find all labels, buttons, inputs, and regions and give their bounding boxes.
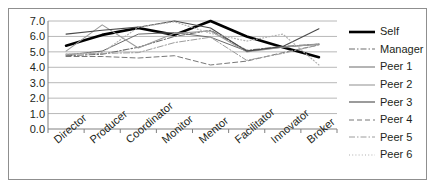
legend-label: Peer 1: [380, 61, 412, 72]
x-tick-label-facilitator: Facilitator: [233, 106, 277, 145]
legend-label: Peer 5: [380, 132, 412, 143]
legend-line-sample-icon: [349, 150, 375, 160]
legend-item-peer-6[interactable]: Peer 6: [349, 146, 427, 164]
chart-frame: 7.06.05.04.03.02.01.00.0 DirectorProduce…: [8, 8, 427, 180]
x-tick-label-director: Director: [52, 112, 89, 145]
legend-label: Peer 2: [380, 79, 412, 90]
legend-line-sample-icon: [349, 62, 375, 72]
x-tick-label-producer: Producer: [88, 108, 129, 145]
legend-item-peer-2[interactable]: Peer 2: [349, 76, 427, 94]
chart-legend: SelfManagerPeer 1Peer 2Peer 3Peer 4Peer …: [349, 23, 427, 164]
x-tick-label-monitor: Monitor: [160, 113, 195, 145]
x-tick-label-mentor: Mentor: [197, 115, 230, 145]
legend-line-sample-icon: [349, 80, 375, 90]
legend-item-peer-3[interactable]: Peer 3: [349, 93, 427, 111]
legend-label: Self: [380, 26, 399, 37]
legend-label: Peer 4: [380, 114, 412, 125]
legend-line-sample-icon: [349, 115, 375, 125]
legend-item-peer-5[interactable]: Peer 5: [349, 129, 427, 147]
legend-label: Peer 3: [380, 97, 412, 108]
legend-line-sample-icon: [349, 97, 375, 107]
legend-line-sample-icon: [349, 132, 375, 142]
legend-label: Manager: [380, 44, 423, 55]
legend-line-sample-icon: [349, 44, 375, 54]
legend-item-peer-4[interactable]: Peer 4: [349, 111, 427, 129]
legend-line-sample-icon: [349, 27, 375, 37]
legend-item-manager[interactable]: Manager: [349, 41, 427, 59]
legend-label: Peer 6: [380, 149, 412, 160]
x-tick-label-broker: Broker: [305, 116, 337, 145]
legend-item-peer-1[interactable]: Peer 1: [349, 58, 427, 76]
legend-item-self[interactable]: Self: [349, 23, 427, 41]
